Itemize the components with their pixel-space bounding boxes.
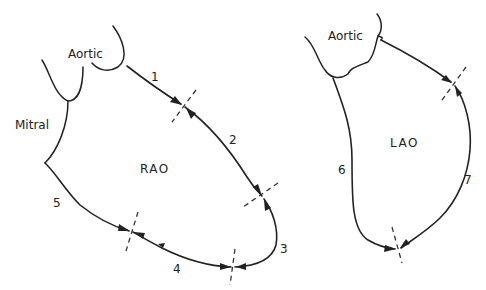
arrow-icon [186, 108, 196, 119]
rao-aortic-label: Aortic [68, 47, 103, 61]
lao-segment-7 [401, 86, 470, 248]
arrow-icon [400, 239, 410, 248]
lao-view: Aortic LAO 6 7 [305, 14, 472, 263]
lao-aortic-root [305, 14, 381, 77]
rao-segment-2 [185, 107, 262, 196]
arrow-icon [220, 263, 231, 270]
rao-mitral-wall [45, 101, 68, 163]
arrow-icon [384, 245, 396, 252]
arrow-icon [118, 224, 130, 231]
segment-label-1: 1 [151, 70, 159, 84]
segment-label-4: 4 [173, 262, 181, 276]
lao-upper-wall [381, 40, 451, 82]
segment-label-3: 3 [280, 242, 288, 256]
rao-segment-4 [133, 232, 231, 267]
ventricular-segment-diagram: Aortic Mitral RAO 1 2 3 4 5 Aortic LAO 6… [0, 0, 486, 290]
rao-boundary-4-5 [126, 212, 138, 251]
rao-boundary-2-3 [243, 183, 278, 207]
rao-mitral-label: Mitral [15, 118, 49, 132]
lao-view-label: LAO [390, 136, 419, 150]
segment-label-7: 7 [464, 173, 472, 187]
rao-view-label: RAO [140, 162, 170, 176]
lao-aortic-hook [378, 36, 382, 40]
lao-boundary-bottom [392, 227, 402, 263]
arrow-icon [253, 184, 262, 196]
segment-label-5: 5 [53, 196, 61, 210]
rao-mitral-cusp [42, 60, 83, 101]
segment-label-6: 6 [338, 163, 346, 177]
rao-segment-3 [235, 199, 277, 267]
segment-label-2: 2 [229, 133, 237, 147]
lao-aortic-label: Aortic [328, 29, 363, 43]
arrow-icon [236, 263, 246, 270]
rao-view: Aortic Mitral RAO 1 2 3 4 5 [15, 26, 288, 285]
